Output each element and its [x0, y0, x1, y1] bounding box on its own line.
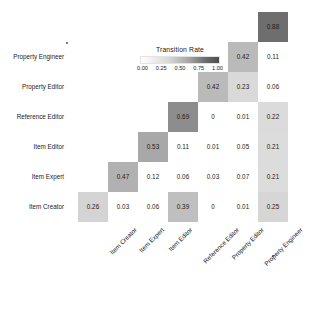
legend-tick: 0.75 — [190, 65, 207, 71]
legend-tick: 0.25 — [153, 65, 170, 71]
legend-tick-labels: 0.000.250.500.751.00 — [134, 65, 226, 71]
heatmap-cell-value: 0.07 — [228, 162, 258, 192]
heatmap-cell-value: 0.26 — [78, 192, 108, 222]
legend-tick: 0.00 — [134, 65, 151, 71]
heatmap-cell-value: 0.25 — [258, 192, 288, 222]
heatmap-cell-value: 0.05 — [228, 132, 258, 162]
x-axis-label: Item Expert — [137, 226, 165, 254]
legend-tick: 0.50 — [172, 65, 189, 71]
heatmap-cell-value: 0.42 — [228, 42, 258, 72]
x-axis-label: Item Creator — [108, 226, 138, 256]
legend-tick: 1.00 — [209, 65, 226, 71]
heatmap-cell-value: 0.47 — [108, 162, 138, 192]
heatmap-cell-value: 0.42 — [198, 72, 228, 102]
y-axis-label: Property Editor — [0, 72, 64, 102]
heatmap-cell-value: 0.39 — [168, 192, 198, 222]
heatmap-cell-value: 0.01 — [228, 192, 258, 222]
legend: Transition Rate 0.000.250.500.751.00 — [134, 46, 226, 71]
heatmap-cell-value: 0.03 — [108, 192, 138, 222]
heatmap-chart: 0.880.420.110.420.230.060.6900.010.220.5… — [0, 0, 309, 315]
heatmap-cell-value: 0.06 — [258, 72, 288, 102]
y-axis-label: Property Engineer — [0, 42, 64, 72]
heatmap-cell-value: 0.12 — [138, 162, 168, 192]
y-axis-label: Item Editor — [0, 132, 64, 162]
heatmap-cell-value: 0.11 — [168, 132, 198, 162]
heatmap-cell-value: 0.69 — [168, 102, 198, 132]
heatmap-cell-value: 0.03 — [198, 162, 228, 192]
heatmap-cell-value: 0.53 — [138, 132, 168, 162]
x-axis-label: Property Engineer — [263, 226, 304, 267]
x-axis-label: Item Editor — [167, 226, 193, 252]
legend-title: Transition Rate — [134, 46, 226, 53]
heatmap-cell-value: 0.06 — [138, 192, 168, 222]
heatmap-cell-value: 0.23 — [228, 72, 258, 102]
y-axis-label: Item Expert — [0, 162, 64, 192]
heatmap-cell-value: 0.06 — [168, 162, 198, 192]
heatmap-cell-value: 0.22 — [258, 102, 288, 132]
heatmap-cell-value: 0.01 — [228, 102, 258, 132]
y-axis-label: Reference Editor — [0, 102, 64, 132]
heatmap-cell-value: 0.88 — [258, 12, 288, 42]
heatmap-cell-value: 0 — [198, 192, 228, 222]
heatmap-cell-value: 0 — [198, 102, 228, 132]
legend-colorbar — [140, 56, 220, 64]
plot-speck-top — [66, 42, 68, 44]
heatmap-cell-value: 0.21 — [258, 132, 288, 162]
heatmap-cell-value: 0.01 — [198, 132, 228, 162]
y-axis-label: Item Creator — [0, 192, 64, 222]
heatmap-cell-value: 0.21 — [258, 162, 288, 192]
heatmap-cell-value: 0.11 — [258, 42, 288, 72]
